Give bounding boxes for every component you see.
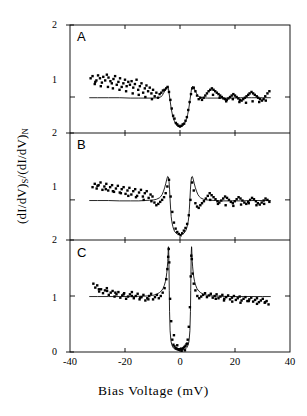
data-point	[206, 92, 208, 94]
data-point	[187, 338, 189, 340]
data-point	[150, 200, 152, 202]
data-point	[163, 287, 165, 289]
data-point	[170, 320, 172, 322]
data-point	[151, 195, 153, 197]
data-point	[101, 81, 103, 83]
data-point	[130, 80, 132, 82]
data-point	[263, 203, 265, 205]
data-point	[106, 73, 108, 75]
data-point	[262, 298, 264, 300]
data-point	[240, 203, 242, 205]
data-point	[221, 294, 223, 296]
panel-b-series	[89, 176, 271, 236]
data-point	[150, 92, 152, 94]
data-point	[122, 293, 124, 295]
data-point	[169, 298, 171, 300]
data-point	[223, 299, 225, 301]
data-point	[91, 75, 93, 77]
data-point	[251, 100, 253, 102]
data-point	[112, 78, 114, 80]
data-point	[268, 90, 270, 92]
data-point	[262, 98, 264, 100]
data-point	[218, 97, 220, 99]
data-point	[130, 193, 132, 195]
data-point	[258, 101, 260, 103]
data-point	[128, 187, 130, 189]
data-point	[190, 254, 192, 256]
data-point	[138, 94, 140, 96]
data-point	[125, 85, 127, 87]
data-point	[188, 326, 190, 328]
data-point	[172, 115, 174, 117]
data-point	[193, 189, 195, 191]
data-point	[153, 201, 155, 203]
data-point	[225, 100, 227, 102]
data-point	[193, 86, 195, 88]
data-point	[98, 290, 100, 292]
data-point	[256, 303, 258, 305]
data-point	[165, 192, 167, 194]
data-point	[94, 183, 96, 185]
data-point	[107, 76, 109, 78]
data-point	[119, 77, 121, 79]
data-point	[137, 89, 139, 91]
data-point	[210, 293, 212, 295]
data-point	[186, 116, 188, 118]
data-point	[122, 82, 124, 84]
data-point	[158, 297, 160, 299]
data-point	[256, 297, 258, 299]
data-point	[107, 86, 109, 88]
data-point	[94, 286, 96, 288]
data-point	[100, 85, 102, 87]
data-point	[187, 109, 189, 111]
data-point	[160, 295, 162, 297]
data-point	[239, 302, 241, 304]
data-point	[231, 300, 233, 302]
data-point	[171, 338, 173, 340]
data-series-group	[89, 73, 271, 352]
data-point	[163, 196, 165, 198]
data-point	[112, 87, 114, 89]
data-point	[168, 248, 170, 250]
data-point	[152, 298, 154, 300]
data-point	[105, 183, 107, 185]
data-point	[181, 232, 183, 234]
data-point	[168, 179, 170, 181]
data-point	[142, 294, 144, 296]
data-point	[111, 82, 113, 84]
data-point	[115, 187, 117, 189]
data-point	[140, 82, 142, 84]
data-point	[132, 92, 134, 94]
data-point	[127, 81, 129, 83]
data-point	[176, 344, 178, 346]
data-point	[191, 181, 193, 183]
data-point	[180, 350, 182, 352]
data-point	[166, 185, 168, 187]
data-point	[184, 120, 186, 122]
data-point	[125, 298, 127, 300]
data-point	[102, 76, 104, 78]
data-point	[264, 95, 266, 97]
data-point	[157, 97, 159, 99]
data-point	[233, 295, 235, 297]
data-point	[124, 193, 126, 195]
data-point	[196, 295, 198, 297]
data-point	[108, 294, 110, 296]
data-point	[117, 291, 119, 293]
data-point	[155, 91, 157, 93]
data-point	[244, 296, 246, 298]
data-point	[106, 290, 108, 292]
panel-c-series	[89, 247, 271, 352]
data-point	[165, 278, 167, 280]
data-point	[132, 86, 134, 88]
data-point	[105, 188, 107, 190]
data-point	[113, 295, 115, 297]
data-point	[156, 294, 158, 296]
data-point	[89, 77, 91, 79]
data-point	[146, 190, 148, 192]
data-point	[201, 99, 203, 101]
data-point	[194, 90, 196, 92]
plot-svg	[0, 0, 307, 416]
data-point	[121, 86, 123, 88]
data-point	[150, 293, 152, 295]
